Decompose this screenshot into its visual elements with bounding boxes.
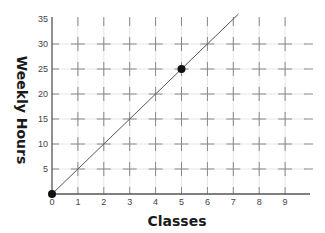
y-tick-label: 25: [38, 64, 48, 74]
data-point: [178, 65, 186, 73]
chart: 0123456789 5101520253035 Classes Weekly …: [0, 0, 325, 233]
x-tick-label: 1: [75, 197, 80, 207]
y-tick-label: 15: [38, 114, 48, 124]
x-tick-label: 5: [179, 197, 184, 207]
x-tick-label: 3: [127, 197, 132, 207]
y-tick-label: 30: [38, 39, 48, 49]
x-tick-label: 0: [49, 197, 54, 207]
x-tick-labels: 0123456789: [49, 197, 287, 207]
trend-line: [52, 14, 238, 194]
grid: [52, 17, 313, 194]
x-tick-label: 4: [153, 197, 158, 207]
x-tick-label: 9: [283, 197, 288, 207]
y-tick-label: 5: [43, 164, 48, 174]
y-tick-label: 20: [38, 89, 48, 99]
y-tick-label: 35: [38, 14, 48, 24]
y-tick-labels: 5101520253035: [38, 14, 48, 174]
x-tick-label: 7: [231, 197, 236, 207]
x-tick-label: 6: [205, 197, 210, 207]
x-tick-label: 8: [257, 197, 262, 207]
x-axis-title: Classes: [147, 213, 206, 229]
x-tick-label: 2: [101, 197, 106, 207]
data-series: [48, 14, 238, 198]
y-tick-label: 10: [38, 139, 48, 149]
y-axis-title: Weekly Hours: [14, 56, 30, 165]
data-point: [48, 190, 56, 198]
